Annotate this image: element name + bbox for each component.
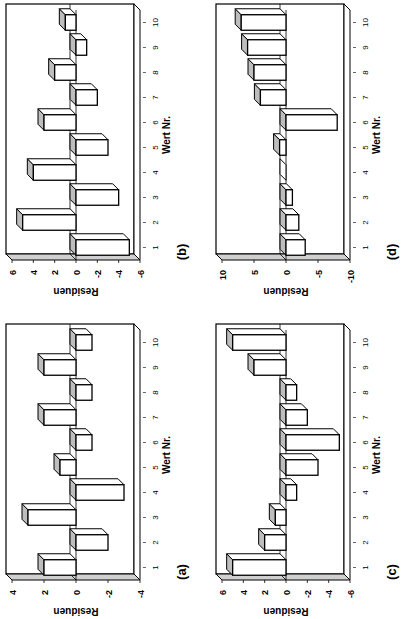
x-tick-label: 4	[151, 170, 160, 175]
y-tick-label: -4	[136, 590, 146, 598]
x-tick-label: 7	[151, 95, 160, 100]
bar	[259, 529, 286, 551]
x-tick-label: 7	[361, 415, 370, 420]
bar	[235, 9, 286, 31]
bar	[49, 59, 76, 81]
bar	[17, 209, 76, 231]
chart-a-svg: 420-2-4Residuen12345678910Wert Nr.(a)	[0, 320, 205, 619]
bar	[280, 234, 305, 256]
bar	[38, 354, 76, 376]
panel-label: (c)	[384, 564, 399, 580]
x-tick-label: 1	[151, 245, 160, 250]
bar	[70, 529, 108, 551]
bar	[70, 429, 92, 451]
bar	[269, 504, 286, 526]
bar	[38, 554, 76, 576]
bar	[227, 554, 286, 576]
x-tick-label: 8	[151, 70, 160, 75]
panel-label: (d)	[384, 244, 399, 261]
x-tick-label: 6	[151, 440, 160, 445]
bar	[280, 109, 337, 131]
x-tick-label: 1	[361, 245, 370, 250]
bar	[70, 479, 124, 501]
x-tick-label: 6	[361, 120, 370, 125]
y-tick-label: 0	[282, 270, 292, 275]
y-tick-label: -2	[303, 590, 313, 598]
y-axis-label: Residuen	[53, 286, 98, 297]
y-axis-label: Residuen	[263, 286, 308, 297]
x-tick-label: 2	[151, 220, 160, 225]
x-tick-label: 5	[151, 145, 160, 150]
bar	[70, 184, 119, 206]
x-axis-label: Wert Nr.	[371, 436, 382, 474]
y-tick-label: 6	[8, 270, 18, 275]
bar	[280, 404, 307, 426]
chart-panel-a: 420-2-4Residuen12345678910Wert Nr.(a)	[0, 320, 205, 619]
chart-a-rotated: 420-2-4Residuen12345678910Wert Nr.(a)	[0, 320, 205, 619]
y-tick-label: -2	[104, 590, 114, 598]
x-tick-label: 6	[151, 120, 160, 125]
bar	[248, 59, 286, 81]
x-tick-label: 7	[151, 415, 160, 420]
x-tick-label: 10	[361, 338, 370, 347]
bar	[54, 454, 76, 476]
bar	[248, 354, 286, 376]
panel-label: (a)	[174, 564, 189, 580]
x-tick-label: 3	[151, 195, 160, 200]
chart-panel-b: 6420-2-4-6Residuen12345678910Wert Nr.(b)	[0, 0, 205, 300]
bar	[38, 404, 76, 426]
bar	[70, 234, 129, 256]
x-tick-label: 10	[361, 18, 370, 27]
y-tick-label: 2	[50, 270, 60, 275]
chart-b-svg: 6420-2-4-6Residuen12345678910Wert Nr.(b)	[0, 0, 205, 300]
bar	[227, 329, 286, 351]
bar	[59, 9, 76, 31]
y-tick-label: -5	[314, 270, 324, 278]
x-tick-label: 4	[361, 170, 370, 175]
x-tick-label: 8	[361, 70, 370, 75]
chart-panel-c: 6420-2-4-6Residuen12345678910Wert Nr.(c)	[210, 320, 415, 619]
x-tick-label: 10	[151, 338, 160, 347]
x-tick-label: 4	[361, 490, 370, 495]
x-tick-label: 10	[151, 18, 160, 27]
x-tick-label: 9	[151, 365, 160, 370]
bar	[242, 34, 286, 56]
x-tick-label: 5	[151, 465, 160, 470]
bar	[70, 34, 87, 56]
y-tick-label: 2	[40, 590, 50, 595]
x-axis-label: Wert Nr.	[161, 436, 172, 474]
floor	[134, 4, 140, 260]
bar	[22, 504, 76, 526]
x-axis-label: Wert Nr.	[371, 116, 382, 154]
y-tick-label: 0	[72, 270, 82, 275]
bar	[70, 134, 108, 156]
y-tick-label: -2	[93, 270, 103, 278]
bar	[280, 429, 339, 451]
x-tick-label: 9	[361, 45, 370, 50]
x-tick-label: 8	[151, 390, 160, 395]
chart-c-rotated: 6420-2-4-6Residuen12345678910Wert Nr.(c)	[210, 320, 415, 619]
x-tick-label: 2	[151, 540, 160, 545]
chart-d-rotated: 1050-5-10Residuen12345678910Wert Nr.(d)	[210, 0, 415, 300]
chart-c-svg: 6420-2-4-6Residuen12345678910Wert Nr.(c)	[210, 320, 415, 619]
bar	[38, 109, 76, 131]
x-tick-label: 5	[361, 145, 370, 150]
x-tick-label: 1	[361, 565, 370, 570]
x-tick-label: 9	[361, 365, 370, 370]
y-tick-label: 2	[260, 590, 270, 595]
x-tick-label: 3	[151, 515, 160, 520]
chart-panel-d: 1050-5-10Residuen12345678910Wert Nr.(d)	[210, 0, 415, 300]
bar	[280, 209, 299, 231]
x-tick-label: 7	[361, 95, 370, 100]
y-tick-label: 5	[250, 270, 260, 275]
y-tick-label: 4	[29, 270, 39, 275]
bar	[27, 159, 76, 181]
panel-label: (b)	[174, 244, 189, 261]
y-axis-label: Residuen	[53, 606, 98, 617]
x-tick-label: 2	[361, 540, 370, 545]
x-tick-label: 2	[361, 220, 370, 225]
chart-d-svg: 1050-5-10Residuen12345678910Wert Nr.(d)	[210, 0, 415, 300]
x-tick-label: 8	[361, 390, 370, 395]
bar	[70, 84, 97, 106]
y-tick-label: -10	[346, 270, 356, 283]
